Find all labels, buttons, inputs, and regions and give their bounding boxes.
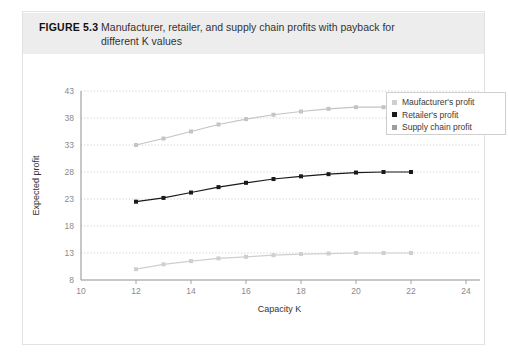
legend-swatch-manufacturer-icon xyxy=(392,100,397,105)
svg-text:10: 10 xyxy=(76,286,86,296)
x-axis-title: Capacity K xyxy=(258,304,302,314)
svg-text:8: 8 xyxy=(69,275,74,285)
svg-text:13: 13 xyxy=(65,248,75,258)
x-axis-tick-labels: 1012141618202224 xyxy=(76,286,471,296)
chart-legend: Maufacturer's profit Retailer's profit S… xyxy=(386,92,506,135)
legend-label-supply-chain: Supply chain profit xyxy=(402,121,472,134)
legend-item-supply-chain[interactable]: Supply chain profit xyxy=(392,121,501,134)
svg-text:18: 18 xyxy=(296,286,306,296)
legend-label-manufacturer: Maufacturer's profit xyxy=(402,96,474,109)
svg-text:23: 23 xyxy=(65,194,75,204)
svg-text:14: 14 xyxy=(186,286,196,296)
figure-card: FIGURE 5.3 Manufacturer, retailer, and s… xyxy=(22,11,485,345)
svg-text:38: 38 xyxy=(65,113,75,123)
legend-label-retailer: Retailer's profit xyxy=(402,109,458,122)
chart-series-layer xyxy=(134,105,413,271)
figure-caption-line1: Manufacturer, retailer, and supply chain… xyxy=(101,21,395,33)
figure-caption-line2: different K values xyxy=(39,35,459,49)
svg-text:12: 12 xyxy=(131,286,141,296)
x-axis-tick-marks xyxy=(136,280,466,284)
y-axis-title: Expected profit xyxy=(31,155,41,216)
legend-swatch-retailer-icon xyxy=(392,112,397,117)
y-axis-tick-labels: 813182328333843 xyxy=(65,86,75,285)
svg-text:28: 28 xyxy=(65,167,75,177)
svg-text:22: 22 xyxy=(406,286,416,296)
legend-item-manufacturer[interactable]: Maufacturer's profit xyxy=(392,96,501,109)
svg-text:18: 18 xyxy=(65,221,75,231)
legend-swatch-supply-chain-icon xyxy=(392,125,397,130)
svg-text:43: 43 xyxy=(65,86,75,96)
figure-caption: FIGURE 5.3 Manufacturer, retailer, and s… xyxy=(39,21,459,35)
svg-text:24: 24 xyxy=(461,286,471,296)
svg-text:33: 33 xyxy=(65,140,75,150)
svg-text:16: 16 xyxy=(241,286,251,296)
figure-number: FIGURE 5.3 xyxy=(39,21,98,33)
legend-item-retailer[interactable]: Retailer's profit xyxy=(392,109,501,122)
svg-text:20: 20 xyxy=(351,286,361,296)
